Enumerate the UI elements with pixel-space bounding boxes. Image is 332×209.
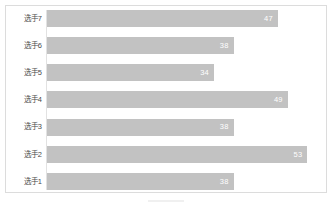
bar[interactable]: 38 xyxy=(47,37,234,54)
bar-value-label: 53 xyxy=(294,151,308,159)
bar-row: 选手7 47 xyxy=(6,10,326,27)
bar-track: 38 xyxy=(47,173,322,190)
bar-value-label: 49 xyxy=(274,96,288,104)
bar-value-label: 38 xyxy=(220,42,234,50)
bar-value-label: 38 xyxy=(220,123,234,131)
bar-track: 49 xyxy=(47,91,322,108)
category-label: 选手7 xyxy=(6,15,42,23)
bar-track: 38 xyxy=(47,37,322,54)
bar-track: 38 xyxy=(47,119,322,136)
category-label: 选手5 xyxy=(6,69,42,77)
chart-frame: 选手7 47 选手6 38 选手5 xyxy=(5,5,327,193)
category-label: 选手1 xyxy=(6,178,42,186)
bar-row: 选手1 38 xyxy=(6,173,326,190)
bar-value-label: 47 xyxy=(264,15,278,23)
category-label: 选手4 xyxy=(6,96,42,104)
bar[interactable]: 49 xyxy=(47,91,288,108)
bar-row: 选手3 38 xyxy=(6,119,326,136)
bar[interactable]: 34 xyxy=(47,64,214,81)
bar-track: 34 xyxy=(47,64,322,81)
category-label: 选手3 xyxy=(6,123,42,131)
bar-track: 53 xyxy=(47,146,322,163)
category-label: 选手6 xyxy=(6,42,42,50)
bar-track: 47 xyxy=(47,10,322,27)
bar[interactable]: 38 xyxy=(47,173,234,190)
bar-row: 选手2 53 xyxy=(6,146,326,163)
bar-row: 选手5 34 xyxy=(6,64,326,81)
bar-row: 选手6 38 xyxy=(6,37,326,54)
caption-artifact xyxy=(148,200,184,202)
figure-container: 选手7 47 选手6 38 选手5 xyxy=(0,0,332,209)
bar[interactable]: 47 xyxy=(47,10,278,27)
bar-value-label: 38 xyxy=(220,178,234,186)
bar-series: 选手7 47 选手6 38 选手5 xyxy=(6,10,326,190)
bar[interactable]: 53 xyxy=(47,146,307,163)
bar-row: 选手4 49 xyxy=(6,91,326,108)
plot-area: 选手7 47 选手6 38 选手5 xyxy=(6,6,326,192)
category-label: 选手2 xyxy=(6,151,42,159)
bar-value-label: 34 xyxy=(200,69,214,77)
bar[interactable]: 38 xyxy=(47,119,234,136)
